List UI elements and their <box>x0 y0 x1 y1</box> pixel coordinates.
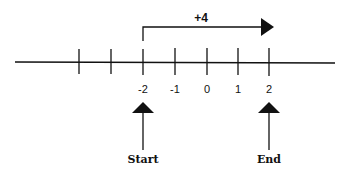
tick-label: 0 <box>204 83 210 95</box>
jump-arrow <box>143 18 274 41</box>
arrowhead-up-icon <box>258 102 280 113</box>
end-pointer <box>258 102 280 150</box>
tick-label: 1 <box>235 83 241 95</box>
tick-label: -2 <box>138 83 148 95</box>
jump-label: +4 <box>194 11 208 25</box>
tick-label: -1 <box>170 83 180 95</box>
arrowhead-right-icon <box>261 18 274 36</box>
end-label: End <box>257 153 281 166</box>
start-pointer <box>132 102 154 150</box>
tick-label: 2 <box>266 83 272 95</box>
arrowhead-up-icon <box>132 102 154 113</box>
number-line-diagram: -2 -1 0 1 2 +4 Start End <box>0 0 346 177</box>
start-label: Start <box>127 153 159 166</box>
